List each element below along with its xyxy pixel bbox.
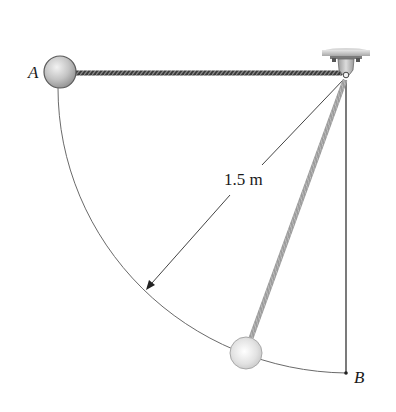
pendulum-diagram: 1.5 m A B [0, 0, 396, 412]
pivot-pin [343, 72, 349, 78]
pendulum-rod-horizontal [74, 71, 342, 76]
ball-a [44, 56, 76, 88]
dimension-line-lower [152, 195, 230, 283]
ball-swung-position [230, 337, 262, 369]
length-label: 1.5 m [224, 170, 263, 189]
rod-texture [251, 80, 345, 338]
swing-arc [58, 88, 346, 373]
point-a-label: A [27, 63, 39, 82]
point-b-label: B [354, 368, 365, 387]
point-b-marker [344, 371, 348, 375]
